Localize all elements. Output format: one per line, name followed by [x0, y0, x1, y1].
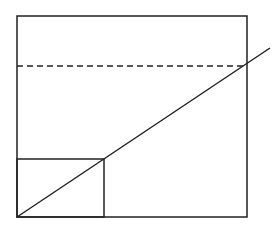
outer-square: [17, 16, 247, 217]
geometry-diagram: [0, 0, 280, 232]
diagonal-line: [17, 48, 270, 217]
